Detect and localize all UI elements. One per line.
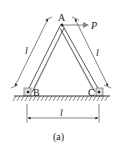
bar-ac <box>60 26 100 92</box>
label-left-length: l <box>25 45 28 56</box>
ground <box>13 96 110 101</box>
truss-diagram: A B C P l l l (a) <box>0 0 122 148</box>
dimension-left <box>11 17 52 88</box>
label-p: P <box>90 20 97 31</box>
label-base-length: l <box>60 107 63 118</box>
dimension-base <box>27 104 99 123</box>
label-right-length: l <box>96 47 99 58</box>
label-a: A <box>58 12 66 23</box>
bar-ab <box>27 26 64 92</box>
figure-caption: (a) <box>53 131 64 143</box>
label-b: B <box>33 87 40 98</box>
label-c: C <box>88 87 95 98</box>
